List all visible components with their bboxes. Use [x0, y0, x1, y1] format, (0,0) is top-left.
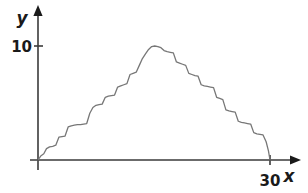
y-axis-arrow-icon: [33, 5, 42, 16]
x-axis-arrow-icon: [290, 155, 301, 164]
x-axis-label: x: [283, 166, 296, 186]
axes-group: [30, 5, 301, 170]
plot-canvas: y x 10 30: [0, 0, 308, 193]
y-axis-tick-label: 10: [11, 38, 32, 56]
data-series-line: [38, 46, 270, 160]
chart-figure: y x 10 30: [0, 0, 308, 193]
y-axis-label: y: [16, 8, 28, 28]
x-axis-tick-label: 30: [260, 172, 281, 190]
